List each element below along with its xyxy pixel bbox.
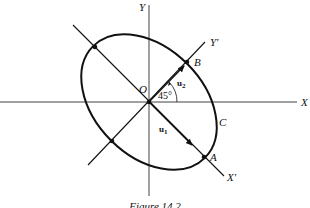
y-prime-axis-label: Y' <box>210 37 218 48</box>
point-origin <box>147 100 152 105</box>
angle-label: 45° <box>158 91 172 101</box>
point-lower-left <box>110 139 115 144</box>
vector-u1-label: u1 <box>159 125 168 136</box>
x-axis-label: X <box>301 97 308 108</box>
point-b-label: B <box>194 57 201 68</box>
ellipse-diagram <box>0 0 310 208</box>
point-upper-left <box>93 45 98 50</box>
y-axis-label: Y <box>139 2 145 13</box>
x-prime-axis-label: X' <box>227 172 236 183</box>
point-a <box>202 155 207 160</box>
figure-caption: Figure 14.2 <box>0 200 310 208</box>
vector-u1 <box>149 102 192 145</box>
origin-label: O <box>139 84 147 95</box>
vector-u2-label: u2 <box>177 79 186 90</box>
point-b <box>185 60 190 65</box>
curve-c-label: C <box>219 117 226 128</box>
point-a-label: A <box>210 152 217 163</box>
